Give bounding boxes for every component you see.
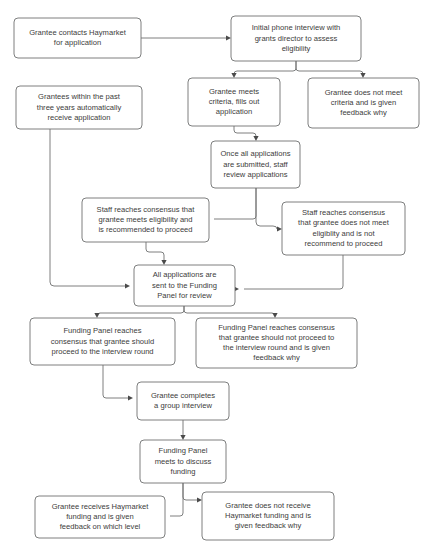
node-label-line: Grantee receives Haymarket	[52, 502, 150, 511]
node-label-grantee-completes-group-interview: Grantee completesa group interview	[151, 391, 215, 410]
edge-staff-yes-to-all-applications-arrowhead	[161, 260, 166, 265]
node-label-once-all-applications-submitted: Once all applicationsare submitted, staf…	[220, 149, 290, 178]
node-grantees-within-past-three-years[interactable]: Grantees within the pastthree years auto…	[16, 86, 142, 129]
node-label-line: three years automatically	[37, 103, 122, 112]
edge-panel-proceed-to-group-interview	[103, 365, 133, 401]
edge-staff-no-to-all-applications-line	[244, 255, 343, 289]
edge-all-applications-to-panel-not-proceed-line	[184, 306, 275, 316]
node-initial-phone-interview[interactable]: Initial phone interview withgrants direc…	[231, 16, 361, 61]
node-label-line: Haymarket funding and is	[225, 511, 311, 520]
edge-all-applications-to-panel-not-proceed	[184, 306, 278, 318]
edge-interview-to-meets-criteria	[231, 61, 296, 78]
edge-group-interview-to-panel-meets-arrowhead	[180, 435, 185, 440]
node-label-line: Grantee meets	[209, 87, 259, 96]
node-label-grantee-does-not-receive-funding: Grantee does not receiveHaymarket fundin…	[225, 501, 311, 530]
edge-meets-criteria-to-review	[234, 126, 259, 141]
node-grantee-meets-criteria[interactable]: Grantee meetscriteria, fills outapplicat…	[188, 78, 280, 126]
node-label-line: consensus that grantee should	[51, 337, 154, 346]
node-all-applications-sent-to-funding-panel[interactable]: All applications aresent to the FundingP…	[134, 265, 235, 306]
edge-panel-meets-to-not-receive-funding	[183, 483, 202, 503]
node-label-line: feedback why	[340, 108, 387, 117]
edge-interview-to-does-not-meet	[296, 61, 366, 78]
node-label-line: the interview round and is given	[223, 343, 330, 352]
node-label-line: Funding Panel reaches	[63, 326, 141, 335]
edge-interview-to-does-not-meet-arrowhead	[360, 73, 365, 78]
node-label-staff-consensus-meets-eligibility: Staff reaches consensus thatgrantee meet…	[97, 205, 196, 234]
edge-grantees-past-to-all-applications-arrowhead	[125, 283, 130, 288]
edge-contacts-to-interview-arrowhead	[226, 35, 231, 40]
node-label-line: receive application	[48, 113, 111, 122]
node-label-line: application	[216, 107, 252, 116]
edge-staff-yes-to-all-applications-line	[146, 242, 164, 260]
node-label-all-applications-sent-to-funding-panel: All applications aresent to the FundingP…	[152, 270, 217, 299]
node-grantee-contacts-haymarket[interactable]: Grantee contacts Haymarketfor applicatio…	[14, 18, 141, 58]
node-label-line: funding and is given	[66, 512, 134, 521]
node-funding-panel-consensus-not-proceed[interactable]: Funding Panel reaches consensusthat gran…	[196, 318, 357, 368]
node-label-line: that grantee does not meet	[298, 218, 390, 227]
node-label-line: meets to discuss	[155, 457, 212, 466]
node-grantee-completes-group-interview[interactable]: Grantee completesa group interview	[137, 382, 229, 420]
node-label-line: grants director to assess	[255, 34, 338, 43]
node-label-grantees-within-past-three-years: Grantees within the pastthree years auto…	[37, 92, 122, 121]
node-layer: Grantee contacts Haymarketfor applicatio…	[14, 16, 419, 540]
node-label-line: Panel for review	[157, 291, 212, 300]
node-label-line: grantee meets eligibility and	[98, 215, 192, 224]
node-label-line: Initial phone interview with	[252, 23, 341, 32]
node-label-line: Funding Panel reaches consensus	[218, 323, 335, 332]
flowchart-canvas: Grantee contacts Haymarketfor applicatio…	[0, 0, 428, 553]
node-label-line: are submitted, staff	[223, 160, 288, 169]
edge-review-to-staff-consensus-no-line	[256, 188, 277, 229]
node-label-line: criteria and is given	[331, 98, 396, 107]
edge-panel-proceed-to-group-interview-arrowhead	[128, 395, 133, 400]
edge-interview-to-does-not-meet-line	[296, 61, 363, 74]
node-label-line: for application	[54, 38, 101, 47]
node-funding-panel-meets-discuss-funding[interactable]: Funding Panelmeets to discussfunding	[140, 440, 226, 483]
node-label-line: given feedback why	[235, 521, 302, 530]
node-label-line: Grantee completes	[151, 391, 215, 400]
node-label-line: Staff reaches consensus	[302, 208, 385, 217]
node-label-line: criteria, fills out	[209, 97, 261, 106]
node-label-line: Grantee does not receive	[225, 501, 310, 510]
node-label-line: feedback on which level	[60, 522, 141, 531]
node-label-line: sent to the Funding	[152, 281, 217, 290]
node-label-funding-panel-consensus-proceed: Funding Panel reachesconsensus that gran…	[51, 326, 154, 355]
edge-all-applications-to-panel-proceed-line	[97, 306, 184, 316]
node-label-line: a group interview	[154, 401, 212, 410]
node-grantee-does-not-receive-funding[interactable]: Grantee does not receiveHaymarket fundin…	[202, 492, 334, 540]
edge-staff-no-to-all-applications	[234, 255, 343, 292]
node-label-line: Staff reaches consensus that	[97, 205, 196, 214]
edge-review-to-staff-consensus-no	[256, 188, 282, 232]
edge-contacts-to-interview	[141, 35, 231, 40]
edge-panel-meets-to-not-receive-funding-arrowhead	[197, 497, 202, 502]
node-once-all-applications-submitted[interactable]: Once all applicationsare submitted, staf…	[211, 141, 300, 188]
edge-meets-criteria-to-review-arrowhead	[253, 136, 258, 141]
edge-staff-yes-to-all-applications	[146, 242, 167, 265]
node-label-line: Grantee does not meet	[325, 88, 404, 97]
node-label-line: proceed to the interview round	[51, 347, 153, 356]
node-label-line: All applications are	[153, 270, 217, 279]
node-label-line: Funding Panel	[159, 446, 208, 455]
process-flow-diagram: Grantee contacts Haymarketfor applicatio…	[0, 0, 428, 553]
edge-review-to-staff-consensus-yes	[204, 188, 256, 222]
edge-review-to-staff-consensus-no-arrowhead	[277, 226, 282, 231]
edge-all-applications-to-panel-proceed-arrowhead	[94, 313, 99, 318]
node-label-line: eligibility	[282, 44, 311, 53]
node-label-line: recommend to proceed	[304, 239, 382, 248]
node-grantee-does-not-meet-criteria[interactable]: Grantee does not meetcriteria and is giv…	[308, 78, 419, 128]
node-staff-consensus-meets-eligibility[interactable]: Staff reaches consensus thatgrantee meet…	[82, 198, 209, 242]
edge-panel-proceed-to-group-interview-line	[103, 365, 128, 398]
node-staff-consensus-does-not-meet-eligibility[interactable]: Staff reaches consensusthat grantee does…	[282, 202, 405, 255]
node-label-line: Grantee contacts Haymarket	[29, 28, 127, 37]
edge-panel-meets-to-not-receive-funding-line	[183, 483, 197, 500]
edge-review-to-staff-consensus-yes-line	[214, 188, 256, 219]
node-grantee-receives-funding[interactable]: Grantee receives Haymarketfunding and is…	[35, 496, 165, 538]
node-label-line: review applications	[223, 170, 287, 179]
edge-all-applications-to-panel-not-proceed-arrowhead	[272, 313, 277, 318]
edge-panel-meets-to-receives-funding-line	[170, 483, 183, 516]
edge-group-interview-to-panel-meets	[180, 420, 185, 440]
node-label-line: feedback why	[253, 353, 300, 362]
node-label-line: Grantees within the past	[38, 92, 121, 101]
node-funding-panel-consensus-proceed[interactable]: Funding Panel reachesconsensus that gran…	[30, 318, 175, 365]
node-label-line: eligiblity and is not	[312, 229, 375, 238]
node-label-line: funding	[171, 467, 196, 476]
